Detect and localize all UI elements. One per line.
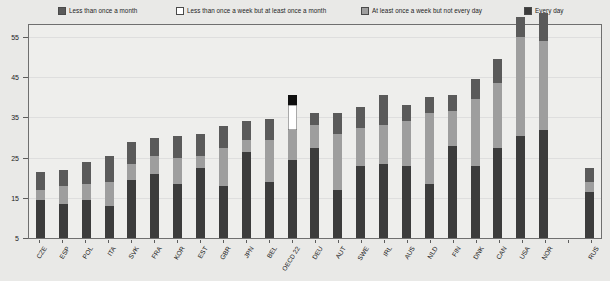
bar-segment [105,182,114,206]
bar-slot [578,25,601,238]
x-tick-label: FIN [450,245,462,258]
stacked-bar[interactable] [402,105,411,238]
stacked-bar[interactable] [59,170,68,238]
legend-label: Less than once a week but at least once … [187,7,326,15]
bar-segment [379,95,388,125]
plot-area [28,24,602,239]
stacked-bar[interactable] [105,156,114,238]
stacked-bar[interactable] [585,168,594,238]
stacked-bar[interactable] [127,142,136,238]
bar-segment [242,140,251,152]
x-tick-label: OECD 22 [281,245,301,272]
bar-segment [173,158,182,184]
bar-slot [75,25,98,238]
x-tick-label: SWE [356,245,370,261]
bar-segment [539,41,548,129]
stacked-bar[interactable] [265,119,274,238]
stacked-bar[interactable] [288,95,297,238]
bar-segment [265,119,274,139]
bar-segment [425,97,434,113]
x-tick-mark [108,240,109,243]
stacked-bar[interactable] [36,172,45,238]
bar-slot [258,25,281,238]
bar-segment [288,130,297,160]
x-tick-mark [62,240,63,243]
bar-segment [333,113,342,133]
x-tick-mark [154,240,155,243]
x-axis: CZEESPPOLITASVKFRAKORESTGBRJPNBELOECD 22… [28,240,602,281]
bar-segment [127,164,136,180]
bar-segment [402,105,411,121]
stacked-bar[interactable] [82,162,91,238]
stacked-bar[interactable] [173,136,182,238]
stacked-bar[interactable] [333,113,342,238]
stacked-bar[interactable] [448,95,457,238]
stacked-bar[interactable] [379,95,388,238]
stacked-bar[interactable] [219,126,228,239]
chart-container: Less than once a monthLess than once a w… [0,0,610,281]
stacked-bar[interactable] [150,138,159,238]
bar-segment [448,111,457,145]
x-tick-label: AUT [334,245,347,260]
y-tick-label: 5 [15,235,19,242]
stacked-bar[interactable] [539,13,548,238]
bar-segment [173,184,182,238]
bar-slot [555,25,578,238]
bar-segment [150,138,159,156]
bar-segment [516,136,525,238]
x-tick-label: POL [81,245,94,260]
bar-segment [448,95,457,111]
stacked-bar[interactable] [516,17,525,238]
y-tick-label: 25 [11,154,19,161]
bar-segment [59,170,68,186]
bar-slot [52,25,75,238]
legend-entry: Less than once a month [58,4,137,18]
bar-slot [212,25,235,238]
y-tick-label: 15 [11,194,19,201]
stacked-bar[interactable] [425,97,434,238]
bar-segment [150,174,159,238]
legend-swatch-icon [176,7,184,15]
bar-segment [493,59,502,83]
bar-segment [82,162,91,184]
x-tick-mark [384,240,385,243]
legend-label: Less than once a month [69,7,137,15]
bar-segment [333,190,342,238]
stacked-bar[interactable] [196,134,205,238]
x-tick-mark [522,240,523,243]
x-tick-label: JPN [243,245,256,259]
bar-segment [265,182,274,238]
bar-slot [372,25,395,238]
bar-segment [265,140,274,182]
x-tick-label: FRA [150,245,163,260]
bar-slot [98,25,121,238]
stacked-bar[interactable] [310,113,319,238]
x-tick-label: IRL [381,245,392,257]
bar-slot [143,25,166,238]
bar-segment [585,182,594,192]
bar-segment [539,13,548,41]
bar-segment [105,156,114,182]
x-tick-mark [545,240,546,243]
x-tick-mark [591,240,592,243]
stacked-bar[interactable] [356,107,365,238]
x-tick-label: BEL [265,245,278,259]
x-tick-label: NLD [426,245,439,260]
x-tick-label: CAN [494,245,507,261]
bar-slot [304,25,327,238]
bar-slot [441,25,464,238]
bar-segment [196,134,205,156]
stacked-bar[interactable] [471,79,480,238]
bar-segment [196,168,205,238]
bar-segment [288,160,297,238]
stacked-bar[interactable] [493,59,502,238]
stacked-bar[interactable] [242,121,251,238]
bar-segment [82,184,91,200]
bar-slot [395,25,418,238]
y-tick-label: 35 [11,114,19,121]
legend-swatch-icon [524,7,532,15]
bar-slot [464,25,487,238]
bar-segment [448,146,457,238]
bar-slot [189,25,212,238]
legend-swatch-icon [361,7,369,15]
